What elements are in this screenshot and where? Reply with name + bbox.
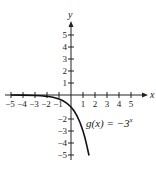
x-tick-label: 1 <box>81 99 86 109</box>
function-graph: x y −5 −4 −3 −2 −1 1 2 3 4 5 <box>0 0 156 175</box>
y-tick-label: −4 <box>57 138 67 148</box>
function-label-exponent: x <box>129 116 134 124</box>
x-tick-label: −2 <box>41 99 51 109</box>
y-tick-label: 1 <box>63 78 68 88</box>
x-tick-labels: −5 −4 −3 −2 −1 1 2 3 4 5 <box>5 99 134 109</box>
x-tick-label: 2 <box>93 99 98 109</box>
y-tick-label: 3 <box>63 54 68 64</box>
y-tick-label: −2 <box>57 114 67 124</box>
x-axis-label: x <box>149 89 155 100</box>
x-axis-arrow-icon <box>142 93 148 98</box>
x-tick-label: 5 <box>129 99 134 109</box>
x-tick-label: −5 <box>5 99 15 109</box>
y-axis-arrow-icon <box>69 21 74 27</box>
y-tick-label: 2 <box>63 66 68 76</box>
y-axis-label: y <box>67 9 73 20</box>
y-tick-label: −3 <box>57 126 67 136</box>
x-tick-label: −4 <box>17 99 27 109</box>
function-label-base: g(x) = −3 <box>86 117 130 130</box>
x-tick-label: 3 <box>105 99 110 109</box>
y-tick-label: −5 <box>57 150 67 160</box>
x-tick-label: 4 <box>117 99 122 109</box>
function-label: g(x) = −3x <box>86 116 134 130</box>
y-tick-label: 5 <box>63 30 68 40</box>
y-tick-label: 4 <box>63 42 68 52</box>
x-tick-label: −3 <box>29 99 39 109</box>
